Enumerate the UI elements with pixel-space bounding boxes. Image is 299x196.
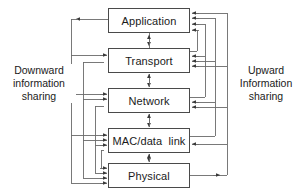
upward-bus-mac-source [190, 18, 215, 136]
layer-label-application: Application [122, 15, 177, 27]
downward-bus-network-source [95, 106, 104, 173]
layer-box-transport[interactable]: Transport [108, 48, 190, 73]
upward-bus-transport-source [190, 30, 199, 51]
upward-bus-physical-source [190, 13, 227, 175]
layer-label-transport: Transport [125, 55, 173, 67]
layer-label-mac-data-link: MAC/data link [113, 135, 186, 147]
upward-information-sharing-label: Upward Information sharing [234, 64, 298, 103]
layer-box-mac-data-link[interactable]: MAC/data link [108, 128, 190, 153]
downward-mac-to-physical [100, 150, 107, 168]
layer-box-physical[interactable]: Physical [108, 163, 190, 188]
cross-layer-diagram: Application Transport Network MAC/data l… [0, 0, 299, 196]
layer-label-network: Network [128, 95, 169, 107]
layer-label-physical: Physical [128, 170, 170, 182]
layer-box-application[interactable]: Application [108, 8, 190, 33]
downward-information-sharing-label: Downward information sharing [2, 64, 76, 103]
downward-bus-application-source [71, 19, 108, 183]
upward-bus-network-source [190, 24, 205, 97]
layer-box-network[interactable]: Network [108, 88, 190, 113]
